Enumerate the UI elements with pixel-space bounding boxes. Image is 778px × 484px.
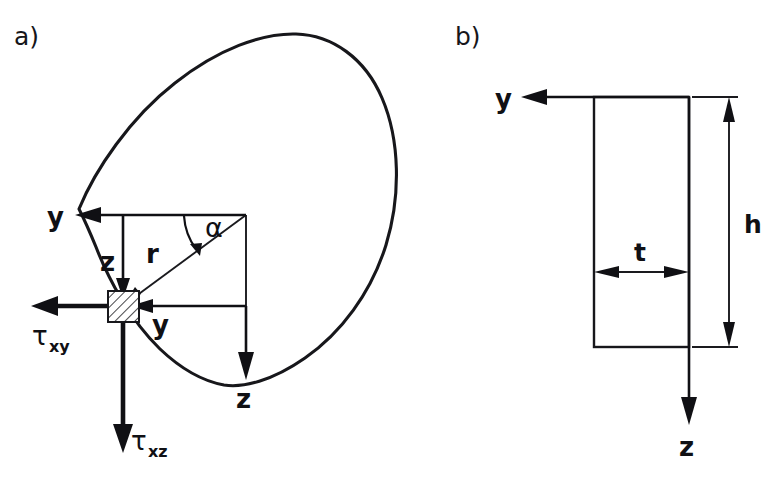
panel-b-y-axis-label: y [495,84,512,114]
z-axis-inner-label: z [100,247,115,277]
tau-xy-symbol: τ [32,321,48,351]
tau-xz-subscript: xz [148,442,168,461]
z-axis-outer-label: z [236,384,251,414]
tau-xz-label: τ [131,426,147,456]
panel-b-z-axis-label: z [679,432,694,462]
angle-label: α [205,212,223,243]
stress-element-hatch [108,291,139,322]
h-dimension-label: h [744,210,762,239]
tau-xz-symbol: τ [131,426,147,456]
stress-element [108,291,139,322]
figure-canvas: a) r α y y [0,0,778,484]
panel-b-label: b) [455,22,481,51]
figure-root: a) r α y y [0,0,778,484]
tau-xy-subscript: xy [49,337,70,356]
y-axis-upper-label: y [47,202,64,232]
tau-xy-label: τ [32,321,48,351]
figure-background [0,0,778,484]
panel-a-label: a) [14,22,39,51]
y-axis-inner-label: y [152,310,169,340]
radius-label: r [146,239,159,269]
t-dimension-label: t [634,238,646,267]
